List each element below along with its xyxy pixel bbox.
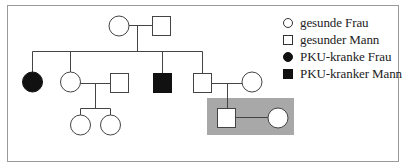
female-healthy-II-2 — [61, 72, 81, 92]
female-affected-II-1 — [23, 72, 43, 92]
female-healthy-III-2 — [101, 115, 121, 135]
circle-filled-icon — [283, 52, 293, 62]
male-affected-II-3 — [154, 74, 172, 93]
female-healthy-III-3-spouse — [268, 108, 288, 128]
male-healthy-III-3 — [218, 109, 236, 128]
legend-label: PKU-kranke Frau — [300, 49, 391, 65]
square-open-icon — [283, 35, 293, 45]
female-healthy-III-1 — [71, 115, 91, 135]
male-healthy-I-2 — [153, 17, 171, 36]
legend-label: gesunder Mann — [300, 32, 379, 48]
legend-label: PKU-kranker Mann — [300, 66, 402, 82]
male-healthy-II-2-spouse — [111, 74, 129, 93]
female-healthy-I-1 — [109, 16, 129, 36]
circle-open-icon — [283, 18, 293, 28]
legend-label: gesunde Frau — [300, 15, 368, 31]
male-healthy-II-4 — [194, 74, 212, 93]
female-healthy-II-4-spouse — [242, 72, 262, 92]
pedigree-diagram: gesunde Frau gesunder Mann PKU-kranke Fr… — [0, 0, 404, 167]
square-filled-icon — [283, 69, 293, 79]
